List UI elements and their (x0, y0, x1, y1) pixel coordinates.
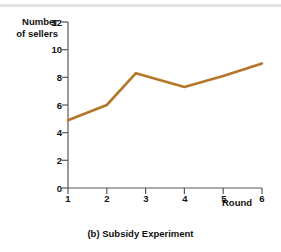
x-axis (68, 188, 262, 194)
y-axis (62, 22, 68, 188)
chart-figure: Number of sellers 12 10 8 6 4 2 0 1 2 3 … (0, 0, 281, 252)
figure-caption: (b) Subsidy Experiment (0, 228, 281, 239)
data-series-line (68, 64, 262, 121)
plot-area (0, 0, 281, 252)
